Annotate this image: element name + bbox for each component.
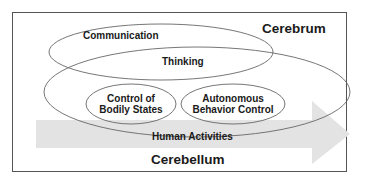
human-activities-label: Human Activities xyxy=(152,131,233,142)
autonomous-behavior-label: Autonomous Behavior Control xyxy=(188,93,278,115)
cerebrum-label: Cerebrum xyxy=(262,22,326,37)
thinking-label: Thinking xyxy=(162,56,204,67)
control-bodily-line2: Bodily States xyxy=(96,104,166,115)
control-bodily-states-label: Control of Bodily States xyxy=(96,93,166,115)
autonomous-line1: Autonomous xyxy=(188,93,278,104)
autonomous-line2: Behavior Control xyxy=(188,104,278,115)
control-bodily-line1: Control of xyxy=(96,93,166,104)
cerebellum-label: Cerebellum xyxy=(151,153,225,168)
communication-label: Communication xyxy=(83,30,159,41)
